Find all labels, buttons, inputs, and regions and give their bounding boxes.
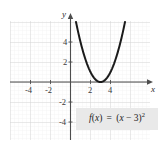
equation-callout: f(x) = (x − 3)2 [76,108,158,130]
y-tick-label--4: -4 [59,118,66,127]
x-tick-label--4: -4 [25,86,32,95]
y-axis-arrowhead [68,13,73,19]
y-tick-label-4: 4 [63,38,67,47]
y-axis-label: y [62,10,66,19]
x-axis-label: x [151,85,155,94]
x-tick-label--2: -2 [45,86,52,95]
y-tick-label--2: -2 [59,98,66,107]
parabola-figure: -4 -2 2 4 4 2 -2 -4 y x f(x) = (x − 3)2 [0,0,161,151]
y-tick-label-2: 2 [63,58,67,67]
x-tick-label-4: 4 [108,86,112,95]
x-tick-label-2: 2 [88,86,92,95]
equation-label: f(x) = (x − 3)2 [89,114,145,124]
